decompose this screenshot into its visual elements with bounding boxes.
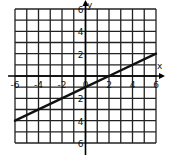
coordinate-plane: -6-4-20246642246 x y [0,0,171,162]
y-tick-label: 2 [78,94,84,104]
y-tick-label: 4 [78,27,84,37]
x-tick-label: -2 [58,80,67,90]
x-tick-label: -6 [11,80,20,90]
y-tick-label: 4 [78,117,84,127]
x-tick-label: 6 [153,80,159,90]
y-tick-label: 6 [78,139,84,149]
x-axis-label: x [157,61,163,71]
y-tick-label: 2 [78,50,84,60]
x-tick-label: -4 [34,80,43,90]
y-axis-label: y [87,0,93,10]
x-tick-label: 2 [106,80,112,90]
x-tick-label: 4 [130,80,136,90]
y-tick-label: 6 [78,5,84,15]
x-axis-arrow-icon [159,73,165,79]
